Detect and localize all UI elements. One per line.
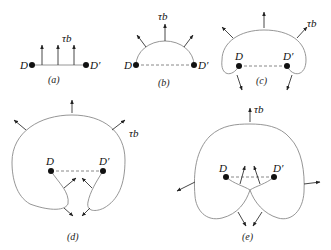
dislocation-line — [194, 124, 304, 219]
pinning-point-d-prime — [271, 174, 277, 180]
pinning-point-d — [48, 168, 54, 174]
caption-c: (c) — [256, 75, 268, 87]
pinning-point-d — [29, 62, 35, 68]
panel-b: D D′ τb (b) — [123, 10, 209, 89]
label-d-prime: D′ — [282, 50, 294, 62]
label-d-prime: D′ — [272, 162, 284, 174]
force-arrow-icon — [297, 27, 307, 38]
force-arrow-icon — [304, 182, 320, 184]
label-d-prime: D′ — [197, 59, 209, 71]
label-tau-b: τb — [62, 32, 72, 44]
force-arrow-icon — [222, 27, 233, 38]
label-tau-b: τb — [307, 17, 317, 29]
label-tau-b: τb — [158, 10, 168, 22]
force-arrow-icon — [64, 178, 76, 188]
pinning-point-d-prime — [100, 168, 106, 174]
pinning-point-d-prime — [284, 63, 290, 69]
dislocation-bowing-diagram: D D′ τb (a) D D′ τb (b) D D′ τb (c) — [0, 0, 331, 250]
force-arrow-icon — [64, 208, 73, 216]
label-tau-b: τb — [129, 127, 139, 139]
label-d: D — [123, 59, 132, 71]
label-d-prime: D′ — [89, 59, 101, 71]
label-d: D — [234, 50, 243, 62]
panel-d: D D′ τb (d) — [12, 100, 139, 243]
force-arrow-icon — [238, 212, 246, 226]
caption-e: (e) — [242, 231, 254, 243]
label-tau-b: τb — [254, 103, 264, 115]
force-arrow-icon — [237, 75, 242, 90]
label-d: D — [45, 155, 54, 167]
panel-e: D D′ τb (e) — [177, 103, 320, 243]
force-arrow-icon — [184, 35, 193, 47]
force-arrow-icon — [253, 212, 262, 226]
label-d: D — [19, 59, 28, 71]
force-arrow-icon — [177, 182, 195, 191]
pinning-point-d-prime — [191, 62, 197, 68]
pinning-point-d — [236, 63, 242, 69]
label-d: D — [218, 162, 227, 174]
force-arrow-icon — [14, 120, 26, 130]
pinning-point-d — [223, 174, 229, 180]
caption-d: (d) — [67, 231, 79, 243]
force-arrow-icon — [137, 35, 146, 47]
caption-b: (b) — [158, 77, 170, 89]
force-arrow-icon — [254, 166, 260, 184]
force-arrow-icon — [240, 166, 245, 184]
force-arrow-icon — [112, 120, 125, 130]
force-arrow-icon — [287, 75, 292, 90]
force-arrow-icon — [82, 208, 90, 216]
pinning-point-d-prime — [83, 62, 89, 68]
pinning-point-d — [133, 62, 139, 68]
panel-c: D D′ τb (c) — [222, 12, 317, 90]
force-arrow-icon — [82, 178, 92, 188]
label-d-prime: D′ — [98, 155, 110, 167]
caption-a: (a) — [48, 74, 60, 86]
panel-a: D D′ τb (a) — [19, 32, 101, 86]
